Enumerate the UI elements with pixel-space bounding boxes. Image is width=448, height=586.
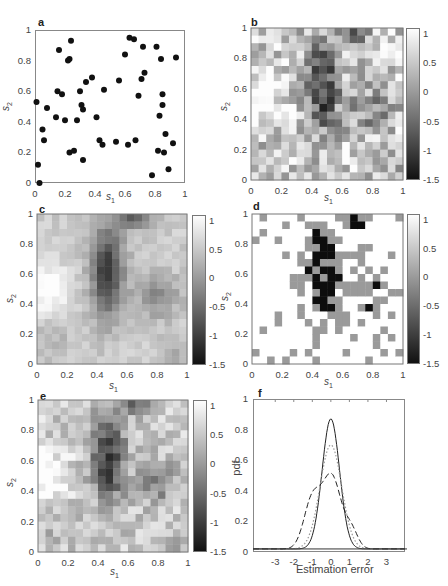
y-tick-label: 0.8 bbox=[208, 424, 248, 435]
colorbar-tick-label: -1.5 bbox=[209, 359, 225, 370]
y-tick-label: 0 bbox=[0, 177, 31, 188]
y-tick-label: 0.2 bbox=[0, 328, 33, 339]
y-tick-label: 0.6 bbox=[0, 85, 31, 96]
y-tick-label: 0.4 bbox=[0, 298, 33, 309]
y-tick-label: 0.8 bbox=[0, 424, 34, 435]
y-tick-label: 0.6 bbox=[207, 83, 247, 94]
y-tick-label: 0.4 bbox=[0, 485, 34, 496]
x-tick-label: 1 bbox=[168, 557, 208, 568]
y-tick-label: 0.6 bbox=[208, 454, 248, 465]
y-tick-label: 0.2 bbox=[0, 516, 34, 527]
y-tick-label: 0.4 bbox=[0, 116, 31, 127]
colorbar-tick-label: 0.5 bbox=[423, 57, 436, 68]
colorbar-tick-label: 1 bbox=[209, 215, 214, 226]
colorbar-tick-label: -1 bbox=[209, 330, 217, 341]
colorbar-tick-label: 1 bbox=[423, 214, 428, 225]
y-tick-label: 0.6 bbox=[0, 268, 33, 279]
x-tick-label: 1 bbox=[383, 185, 423, 196]
y-tick-label: 0 bbox=[0, 546, 34, 557]
colorbar-tick-label: -1.5 bbox=[423, 358, 439, 369]
y-tick-label: 0 bbox=[207, 174, 247, 185]
y-tick-label: 1 bbox=[0, 394, 34, 405]
x-tick-label: 1 bbox=[165, 188, 205, 199]
colorbar-tick-label: -0.5 bbox=[423, 116, 439, 127]
y-tick-label: 0 bbox=[208, 546, 248, 557]
y-tick-label: 0.2 bbox=[207, 144, 247, 155]
colorbar-tick-label: -1 bbox=[423, 329, 431, 340]
y-tick-label: 0 bbox=[0, 358, 33, 369]
x-tick-label: 1 bbox=[167, 369, 207, 380]
y-tick-label: 0.2 bbox=[208, 515, 248, 526]
y-tick-label: 0.2 bbox=[0, 146, 31, 157]
figure-caption-cutoff bbox=[0, 580, 448, 586]
colorbar-tick-label: -0.5 bbox=[209, 301, 225, 312]
colorbar-tick-label: -0.5 bbox=[423, 300, 439, 311]
y-tick-label: 0.4 bbox=[207, 113, 247, 124]
y-tick-label: 0.8 bbox=[207, 52, 247, 63]
colorbar-tick-label: 0 bbox=[209, 272, 214, 283]
y-tick-label: 0.8 bbox=[0, 238, 33, 249]
x-tick-label: 3 bbox=[366, 556, 406, 567]
colorbar-tick-label: 1 bbox=[423, 28, 428, 39]
colorbar-tick-label: -1.5 bbox=[423, 174, 439, 185]
y-tick-label: 0.6 bbox=[0, 455, 34, 466]
y-tick-label: 0.4 bbox=[208, 485, 248, 496]
colorbar-tick-label: 0 bbox=[423, 271, 428, 282]
y-tick-label: 0.8 bbox=[0, 55, 31, 66]
y-tick-label: 1 bbox=[0, 208, 33, 219]
y-tick-label: 1 bbox=[207, 22, 247, 33]
colorbar-tick-label: 0.5 bbox=[209, 244, 222, 255]
y-tick-label: 1 bbox=[0, 24, 31, 35]
x-tick-label: 1 bbox=[383, 369, 423, 380]
colorbar-tick-label: -1 bbox=[423, 145, 431, 156]
y-tick-label: 1 bbox=[208, 393, 248, 404]
colorbar-tick-label: 0.5 bbox=[423, 243, 436, 254]
colorbar-tick-label: 0 bbox=[423, 86, 428, 97]
